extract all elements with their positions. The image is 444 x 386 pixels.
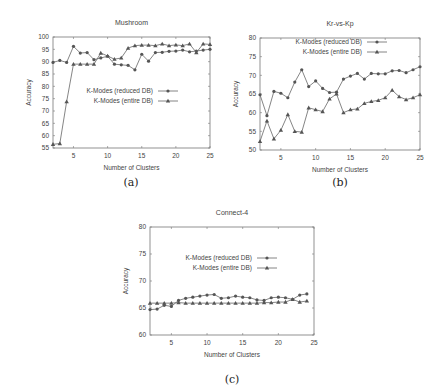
circle-marker (113, 63, 116, 66)
y-tick-label: 85 (42, 70, 50, 77)
triangle-marker (390, 88, 394, 92)
triangle-marker (286, 112, 290, 116)
x-tick-label: 20 (172, 152, 180, 159)
legend-label: K-Modes (reduced DB) (186, 254, 252, 262)
plot-frame (150, 227, 314, 335)
x-tick-label: 15 (347, 154, 355, 161)
circle-marker (208, 48, 211, 51)
x-tick-label: 25 (416, 154, 424, 161)
x-tick-label: 10 (312, 154, 320, 161)
y-tick-label: 60 (42, 132, 50, 139)
circle-marker (356, 72, 359, 75)
circle-marker (377, 72, 380, 75)
circle-marker (188, 50, 191, 53)
triangle-marker (279, 128, 283, 132)
x-tick-label: 20 (275, 339, 283, 346)
y-tick-label: 75 (42, 95, 50, 102)
triangle-marker (293, 129, 297, 133)
legend-label: K-Modes (entire DB) (193, 264, 252, 272)
legend-label: K-Modes (reduced DB) (87, 87, 153, 95)
circle-marker (314, 79, 317, 82)
circle-marker (286, 96, 289, 99)
circle-marker (391, 69, 394, 72)
circle-marker (220, 297, 223, 300)
chart-title: Kr-vs-Kp (326, 20, 353, 28)
y-tick-label: 60 (249, 109, 257, 116)
y-tick-label: 80 (249, 34, 257, 41)
chart-connect-4: Connect-46065707580510152025Number of Cl… (122, 209, 318, 386)
circle-marker (363, 77, 366, 80)
circle-marker (328, 91, 331, 94)
circle-marker (65, 61, 68, 64)
legend: K-Modes (reduced DB)K-Modes (entire DB) (87, 87, 178, 105)
x-tick-label: 5 (170, 339, 174, 346)
circle-marker (86, 51, 89, 54)
legend-label: K-Modes (entire DB) (94, 97, 153, 105)
circle-marker (51, 61, 54, 64)
circle-marker (72, 45, 75, 48)
circle-marker (148, 308, 151, 311)
circle-marker (147, 60, 150, 63)
circle-marker (418, 65, 421, 68)
triangle-marker (327, 97, 331, 101)
circle-marker (79, 51, 82, 54)
circle-marker (370, 72, 373, 75)
circle-marker (277, 296, 280, 299)
x-tick-label: 15 (138, 152, 146, 159)
circle-marker (58, 59, 61, 62)
triangle-marker (187, 42, 191, 46)
figure-canvas: Mushroom556065707580859095100510152025Nu… (0, 0, 444, 386)
triangle-marker (58, 141, 62, 145)
y-tick-label: 75 (249, 53, 257, 60)
circle-marker (191, 296, 194, 299)
circle-marker (307, 85, 310, 88)
circle-marker (279, 92, 282, 95)
circle-marker (342, 77, 345, 80)
subfigure-caption: (b) (332, 176, 348, 189)
circle-marker (272, 90, 275, 93)
triangle-marker (265, 119, 269, 123)
circle-marker (174, 49, 177, 52)
circle-marker (293, 80, 296, 83)
y-tick-label: 55 (42, 144, 50, 151)
circle-marker (184, 297, 187, 300)
triangle-marker (176, 300, 180, 304)
y-tick-label: 70 (42, 107, 50, 114)
circle-marker (140, 53, 143, 56)
circle-marker (213, 293, 216, 296)
x-tick-label: 5 (72, 152, 76, 159)
circle-marker (384, 72, 387, 75)
circle-marker (205, 293, 208, 296)
triangle-marker (99, 51, 103, 55)
circle-marker (161, 51, 164, 54)
x-tick-label: 10 (203, 339, 211, 346)
legend: K-Modes (reduced DB)K-Modes (entire DB) (296, 38, 387, 56)
circle-marker (167, 50, 170, 53)
y-tick-label: 100 (38, 33, 49, 40)
circle-marker (411, 68, 414, 71)
chart-mushroom: Mushroom556065707580859095100510152025Nu… (25, 19, 214, 189)
triangle-marker (64, 99, 68, 103)
series-reduced-db (51, 45, 211, 72)
circle-marker (375, 40, 378, 43)
subfigure-caption: (a) (123, 176, 138, 189)
circle-marker (181, 48, 184, 51)
circle-marker (133, 68, 136, 71)
series-reduced-db (258, 65, 421, 117)
subfigure-caption: (c) (225, 373, 240, 386)
x-tick-label: 15 (239, 339, 247, 346)
y-tick-label: 75 (139, 250, 147, 257)
circle-marker (241, 296, 244, 299)
y-tick-label: 90 (42, 58, 50, 65)
circle-marker (156, 307, 159, 310)
circle-marker (227, 296, 230, 299)
circle-marker (234, 295, 237, 298)
x-tick-label: 10 (104, 152, 112, 159)
legend-label: K-Modes (entire DB) (303, 48, 362, 56)
y-axis-label: Accuracy (25, 78, 33, 105)
circle-marker (404, 71, 407, 74)
legend-label: K-Modes (reduced DB) (296, 38, 362, 46)
y-tick-label: 60 (139, 331, 147, 338)
circle-marker (298, 293, 301, 296)
circle-marker (166, 89, 169, 92)
